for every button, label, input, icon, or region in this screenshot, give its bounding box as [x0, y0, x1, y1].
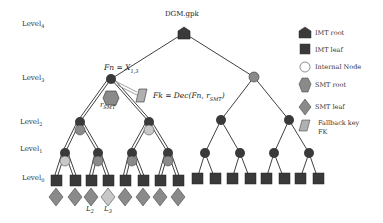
l3-label: L3	[104, 205, 112, 214]
fn-text: Fn = X	[104, 63, 130, 72]
level-sub: 3	[41, 77, 44, 83]
smt-leaf-icon	[299, 99, 311, 115]
level-1-label: Level1	[20, 145, 42, 154]
level-text: Level	[22, 174, 41, 182]
level-sub: 4	[41, 23, 44, 29]
l3-sub: 3	[109, 208, 112, 214]
fn-annotation: Fn = X1,3	[104, 63, 138, 74]
legend-smt-root: SMT root	[315, 81, 346, 89]
diagram-title: DGM.gpk	[165, 10, 199, 18]
level-4-label: Level4	[22, 20, 44, 29]
l2-label: L2	[86, 205, 94, 214]
fk-close: )	[222, 91, 225, 100]
level-text: Level	[20, 118, 39, 126]
smt-root-icon	[299, 78, 311, 92]
legend-internal-node: Internal Node	[315, 63, 361, 71]
level-sub: 1	[39, 148, 42, 154]
fallback-key-icon	[299, 120, 310, 131]
imt-leaf-icon	[300, 44, 310, 54]
smt-leaves	[49, 188, 185, 206]
level0-imt-leaves	[51, 173, 324, 186]
legend-smt-leaf: SMT leaf	[315, 103, 345, 111]
fk-sub: SMT	[210, 96, 222, 102]
level-sub: 0	[41, 177, 44, 183]
legend-imt-root: IMT root	[315, 29, 344, 37]
l2-sub: 2	[91, 208, 94, 214]
level-text: Level	[20, 145, 39, 153]
imt-root-node	[178, 27, 190, 39]
rsmt-sub: SMT	[103, 104, 115, 110]
internal-node-icon	[300, 62, 310, 72]
internal-node	[249, 72, 259, 82]
level-text: Level	[22, 74, 41, 82]
level1-nodes	[60, 148, 314, 166]
rsmt-annotation: rSMT	[100, 101, 115, 110]
level2-nodes	[75, 115, 294, 135]
level-2-label: Level2	[20, 118, 42, 127]
internal-node	[106, 74, 116, 84]
imt-root-icon	[299, 27, 311, 38]
level-3-label: Level3	[22, 74, 44, 83]
legend-icons	[299, 27, 311, 131]
fk-text: Fk = Dec(Fn, r	[153, 91, 210, 100]
fn-sub: 1,3	[130, 68, 138, 74]
fk-annotation: Fk = Dec(Fn, rSMT)	[153, 91, 225, 102]
legend-imt-leaf: IMT leaf	[315, 46, 343, 54]
legend-fallback-key: Fallback key	[318, 119, 359, 127]
edges	[53, 33, 318, 181]
level-sub: 2	[39, 121, 42, 127]
legend-fk: FK	[318, 128, 327, 136]
level-text: Level	[22, 20, 41, 28]
level-0-label: Level0	[22, 174, 44, 183]
fallback-key-node	[136, 89, 147, 102]
